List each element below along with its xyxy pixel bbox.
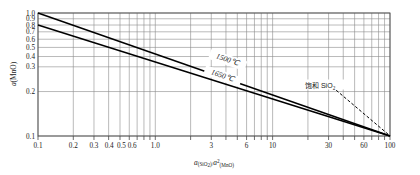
annotation-subscript: 2 xyxy=(333,84,336,90)
x-tick-label: 30 xyxy=(325,142,333,150)
x-tick-label: 3 xyxy=(209,142,213,150)
x-axis-ticks xyxy=(38,136,390,140)
x-tick-label: 100 xyxy=(385,142,396,150)
x-tick-label: 10 xyxy=(269,142,277,150)
y-tick-label: 0.3 xyxy=(26,63,35,71)
x-tick-label: 0.4 xyxy=(105,142,114,150)
y-axis-tick-labels: 1.0 0.9 0.8 0.7 0.6 0.5 0.4 0.3 0.2 0.1 xyxy=(26,10,35,141)
chart-figure: 1.0 0.9 0.8 0.7 0.6 0.5 0.4 0.3 0.2 0.1 … xyxy=(0,0,420,175)
x-tick-label: 6 xyxy=(245,142,249,150)
y-tick-label: 0.5 xyxy=(26,44,35,52)
y-tick-label: 0.6 xyxy=(26,36,35,44)
y-axis-title-sub: (MnO) xyxy=(9,61,18,82)
x-tick-label: 0.5 xyxy=(117,142,126,150)
x-axis-title-sub-mno: (MnO) xyxy=(220,162,235,169)
svg-text:a(SiO2)/a2(MnO): a(SiO2)/a2(MnO) xyxy=(194,158,234,169)
y-tick-label: 0.4 xyxy=(26,53,35,61)
chart-canvas: 1.0 0.9 0.8 0.7 0.6 0.5 0.4 0.3 0.2 0.1 … xyxy=(0,0,420,175)
y-tick-label: 0.2 xyxy=(26,88,35,96)
y-tick-label: 0.1 xyxy=(26,133,35,141)
x-tick-label: 1.0 xyxy=(151,142,160,150)
y-axis-title: a(MnO) xyxy=(9,61,18,86)
x-tick-label: 0.3 xyxy=(89,142,98,150)
x-tick-label: 0.2 xyxy=(69,142,78,150)
x-axis-tick-labels: 0.1 0.2 0.3 0.4 0.5 0.6 1.0 3 6 10 30 60… xyxy=(34,142,396,150)
x-tick-label: 0.6 xyxy=(128,142,137,150)
x-tick-label: 0.1 xyxy=(34,142,43,150)
x-axis-title-sub-sio: (SiO xyxy=(198,161,208,168)
annotation-text: 饱和 SiO xyxy=(305,81,333,90)
annotation-saturated-sio2-group: 饱和 SiO2 xyxy=(303,80,351,91)
svg-text:a(MnO): a(MnO) xyxy=(9,61,18,86)
x-tick-label: 60 xyxy=(360,142,368,150)
x-axis-title: a(SiO2)/a2(MnO) xyxy=(194,158,234,169)
